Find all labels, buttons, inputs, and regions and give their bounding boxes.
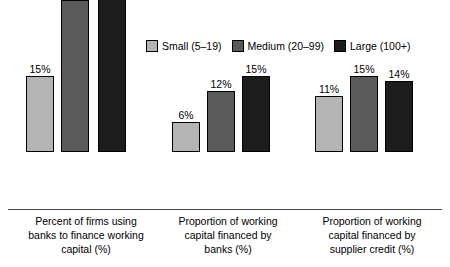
category-label-1-line-0: Proportion of working (158, 214, 298, 228)
bar-value-small-0: 15% (19, 63, 61, 75)
bar-medium-0 (61, 0, 89, 152)
bar-small-0 (26, 76, 54, 152)
category-label-1-line-2: banks (%) (158, 242, 298, 256)
bar-value-large-2: 14% (378, 68, 420, 80)
plot-area: 15% 30% 38% 6% 12% 15% (0, 0, 450, 210)
bar-large-2 (385, 81, 413, 152)
bar-small-2 (315, 96, 343, 152)
bar-medium-1 (207, 91, 235, 152)
category-label-0-line-2: capital (%) (12, 242, 160, 256)
category-label-2-line-0: Proportion of working (299, 214, 445, 228)
category-label-0-line-0: Percent of firms using (12, 214, 160, 228)
bar-value-small-1: 6% (165, 109, 207, 121)
bar-small-1 (172, 122, 200, 152)
bar-value-medium-1: 12% (200, 78, 242, 90)
category-label-0: Percent of firms using banks to finance … (12, 214, 160, 256)
category-label-0-line-1: banks to finance working (12, 228, 160, 242)
category-label-2: Proportion of working capital financed b… (299, 214, 445, 256)
bar-large-0 (98, 0, 126, 152)
bar-large-1 (242, 76, 270, 152)
bar-medium-2 (350, 76, 378, 152)
x-axis-baseline (8, 209, 442, 210)
bar-chart: Small (5–19) Medium (20–99) Large (100+)… (0, 0, 450, 267)
bar-value-small-2: 11% (308, 83, 350, 95)
category-label-1-line-1: capital financed by (158, 228, 298, 242)
category-label-1: Proportion of working capital financed b… (158, 214, 298, 256)
bar-value-large-1: 15% (235, 63, 277, 75)
category-label-2-line-1: capital financed by (299, 228, 445, 242)
category-label-2-line-2: supplier credit (%) (299, 242, 445, 256)
